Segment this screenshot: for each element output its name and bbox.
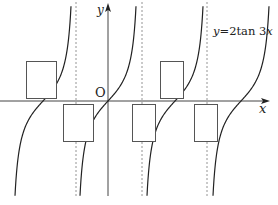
answer-box-5[interactable] (194, 104, 218, 142)
answer-box-2[interactable] (63, 104, 94, 142)
origin-label: O (95, 86, 106, 99)
answer-box-1[interactable] (26, 61, 57, 99)
x-axis-label: x (259, 102, 266, 115)
equation-body: =2tan 3 (220, 24, 267, 38)
answer-box-4[interactable] (160, 61, 184, 99)
y-axis-label: y (97, 4, 104, 16)
equation-label: y=2tan 3x (213, 26, 273, 38)
equation-var-x: x (266, 24, 273, 38)
answer-box-3[interactable] (132, 104, 156, 142)
